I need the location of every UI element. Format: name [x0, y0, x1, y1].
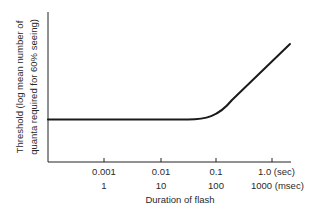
y-axis-title-line-1: Threshold (log mean number of	[14, 20, 25, 153]
y-axis-title-line-2: quanta required for 60% seeing)	[28, 19, 39, 155]
x-tick-label-sec-0: 0.001	[92, 166, 116, 177]
x-tick-label-msec-0: 1	[101, 180, 106, 191]
x-axis-title: Duration of flash	[145, 194, 214, 205]
x-tick-label-sec-3: 1.0 (sec)	[258, 166, 295, 177]
x-tick-label-msec-2: 100	[208, 180, 224, 191]
threshold-vs-duration-chart: 0.001 0.01 0.1 1.0 (sec) 1 10 100 1000 (…	[0, 0, 329, 216]
x-tick-label-msec-3: 1000 (msec)	[251, 180, 304, 191]
threshold-curve	[48, 44, 290, 120]
x-ticks	[104, 158, 272, 162]
x-tick-label-msec-1: 10	[156, 180, 167, 191]
x-tick-label-sec-2: 0.1	[209, 166, 222, 177]
x-tick-label-sec-1: 0.01	[152, 166, 171, 177]
